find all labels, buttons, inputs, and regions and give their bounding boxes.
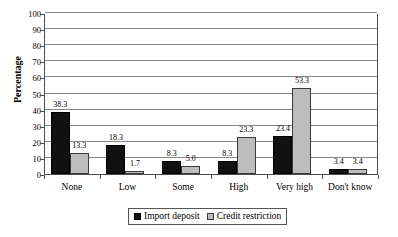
y-axis-tick-label: 30	[17, 123, 41, 132]
chart-legend: Import depositCredit restriction	[128, 208, 287, 225]
y-axis-tick-label: 20	[17, 139, 41, 148]
bar-group: 18.31.7	[101, 14, 157, 174]
y-axis-tick-label: 10	[17, 155, 41, 164]
bar-value-label: 53.3	[287, 77, 316, 85]
bar-group: 3.43.4	[323, 14, 379, 174]
x-axis-tick-mark	[378, 175, 379, 179]
y-axis-tick-label: 100	[17, 10, 41, 19]
bar-credit-restriction	[348, 169, 367, 174]
y-axis-tick-mark	[40, 127, 44, 128]
y-axis-tick-mark	[40, 95, 44, 96]
x-axis-tick-mark	[44, 175, 45, 179]
bar-value-label: 23.3	[232, 126, 261, 134]
legend-entry: Credit restriction	[207, 211, 282, 222]
y-axis-tick-label: 90	[17, 26, 41, 35]
bar-value-label: 13.3	[65, 142, 94, 150]
y-axis-tick-label: 0	[17, 171, 41, 180]
x-axis-tick-mark	[100, 175, 101, 179]
y-axis-tick-label: 50	[17, 91, 41, 100]
y-axis-tick-label: 70	[17, 58, 41, 67]
bar-value-label: 18.3	[101, 134, 130, 142]
x-axis-tick-label: Some	[155, 182, 211, 193]
bar-value-label: 5.0	[176, 155, 205, 163]
legend-label: Import deposit	[144, 211, 200, 222]
x-axis-tick-label: High	[211, 182, 267, 193]
bar-credit-restriction	[237, 137, 256, 175]
y-axis-tick-mark	[40, 14, 44, 15]
x-axis-tick-label: None	[44, 182, 100, 193]
x-axis-tick-mark	[211, 175, 212, 179]
bar-import-deposit	[106, 145, 125, 174]
y-axis-tick-mark	[40, 143, 44, 144]
y-axis-tick-mark	[40, 159, 44, 160]
bar-credit-restriction	[292, 88, 311, 174]
bar-value-label: 38.3	[46, 101, 75, 109]
y-axis-tick-mark	[40, 62, 44, 63]
bar-value-label: 1.7	[120, 160, 149, 168]
bar-value-label: 3.4	[343, 158, 372, 166]
gridline	[45, 12, 377, 13]
y-axis-tick-mark	[40, 30, 44, 31]
bar-import-deposit	[329, 169, 348, 174]
x-axis-tick-mark	[267, 175, 268, 179]
y-axis-tick-label: 40	[17, 107, 41, 116]
bar-chart: Percentage 38.313.318.31.78.35.08.323.32…	[0, 0, 398, 237]
x-axis-tick-mark	[322, 175, 323, 179]
bar-group: 8.35.0	[156, 14, 212, 174]
x-axis-tick-label: Don't know	[322, 182, 378, 193]
legend-swatch-import	[134, 213, 141, 220]
legend-label: Credit restriction	[217, 211, 282, 222]
x-axis-tick-label: Very high	[267, 182, 323, 193]
y-axis-tick-label: 80	[17, 42, 41, 51]
x-axis-tick-label: Low	[100, 182, 156, 193]
bar-groups: 38.313.318.31.78.35.08.323.323.453.33.43…	[45, 14, 377, 174]
y-axis-tick-mark	[40, 78, 44, 79]
bar-group: 38.313.3	[45, 14, 101, 174]
bar-credit-restriction	[125, 171, 144, 174]
y-axis-tick-mark	[40, 46, 44, 47]
x-axis-tick-mark	[155, 175, 156, 179]
legend-swatch-credit	[207, 213, 214, 220]
bar-credit-restriction	[181, 166, 200, 174]
bar-group: 23.453.3	[268, 14, 324, 174]
plot-area: 38.313.318.31.78.35.08.323.323.453.33.43…	[44, 14, 378, 175]
y-axis-tick-mark	[40, 111, 44, 112]
legend-entry: Import deposit	[134, 211, 200, 222]
bar-import-deposit	[218, 161, 237, 174]
bar-credit-restriction	[70, 153, 89, 174]
bar-import-deposit	[273, 136, 292, 174]
y-axis-tick-label: 60	[17, 74, 41, 83]
bar-group: 8.323.3	[212, 14, 268, 174]
